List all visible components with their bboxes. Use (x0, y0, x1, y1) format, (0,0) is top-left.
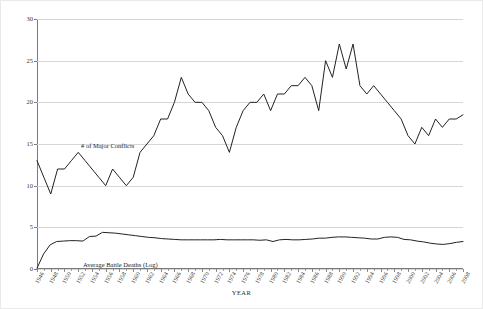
y-tick-label: 30 (27, 16, 34, 23)
x-tick-label: 1978 (254, 271, 265, 284)
x-tick-mark (113, 269, 114, 271)
x-tick-label: 1980 (268, 271, 279, 284)
x-axis-title: YEAR (1, 289, 482, 296)
y-tick-label: 5 (30, 224, 33, 231)
x-tick-mark (188, 269, 189, 272)
x-tick-label: 1990 (336, 271, 347, 284)
x-tick-label: 1976 (240, 271, 251, 284)
x-tick-label: 1994 (364, 271, 375, 284)
x-tick-label: 1960 (130, 271, 141, 284)
x-tick-label: 1964 (158, 271, 169, 284)
x-tick-mark (181, 269, 182, 271)
x-tick-label: 1952 (75, 271, 86, 284)
x-tick-label: 1948 (48, 271, 59, 284)
x-tick-mark (140, 269, 141, 271)
y-tick-label: 25 (27, 57, 34, 64)
x-tick-mark (106, 269, 107, 272)
x-tick-label: 1968 (185, 271, 196, 284)
x-tick-mark (51, 269, 52, 272)
x-tick-mark (78, 269, 79, 272)
x-tick-mark (319, 269, 320, 271)
x-tick-mark (154, 269, 155, 271)
x-tick-mark (381, 269, 382, 272)
x-tick-mark (271, 269, 272, 272)
x-tick-mark (312, 269, 313, 272)
x-tick-mark (37, 269, 38, 272)
x-tick-label: 1972 (213, 271, 224, 284)
x-tick-mark (71, 269, 72, 271)
x-tick-label: 1992 (350, 271, 361, 284)
x-tick-label: 1998 (391, 271, 402, 284)
x-tick-mark (85, 269, 86, 271)
x-tick-mark (408, 269, 409, 272)
x-tick-mark (168, 269, 169, 271)
x-tick-mark (463, 269, 464, 272)
x-tick-mark (367, 269, 368, 272)
x-tick-mark (44, 269, 45, 271)
x-tick-mark (353, 269, 354, 272)
x-tick-mark (449, 269, 450, 272)
x-tick-label: 2004 (433, 271, 444, 284)
x-tick-label: 1962 (144, 271, 155, 284)
series-label-major-conflicts: # of Major Conflicts (81, 143, 134, 150)
x-tick-mark (209, 269, 210, 271)
x-tick-mark (401, 269, 402, 271)
x-tick-mark (223, 269, 224, 271)
x-tick-label: 2002 (419, 271, 430, 284)
x-tick-mark (147, 269, 148, 272)
x-tick-mark (429, 269, 430, 271)
series-label-average-battle-deaths: Average Battle Deaths (Log) (83, 262, 158, 269)
x-tick-mark (442, 269, 443, 271)
x-tick-label: 1974 (226, 271, 237, 284)
x-tick-mark (360, 269, 361, 271)
x-tick-label: 1984 (295, 271, 306, 284)
x-tick-label: 1986 (309, 271, 320, 284)
x-tick-label: 1996 (378, 271, 389, 284)
x-tick-label: 1988 (323, 271, 334, 284)
x-tick-mark (456, 269, 457, 271)
x-tick-mark (374, 269, 375, 271)
chart-page: 051015202530 194619481950195219541956195… (0, 0, 483, 309)
x-tick-label: 1982 (281, 271, 292, 284)
x-tick-mark (387, 269, 388, 271)
x-tick-mark (126, 269, 127, 271)
x-tick-mark (264, 269, 265, 271)
x-tick-label: 2000 (405, 271, 416, 284)
x-tick-label: 1966 (171, 271, 182, 284)
x-tick-label: 2006 (446, 271, 457, 284)
x-tick-mark (58, 269, 59, 271)
x-tick-mark (332, 269, 333, 271)
x-tick-label: 1958 (116, 271, 127, 284)
y-tick-label: 15 (27, 141, 34, 148)
plot-area: 051015202530 194619481950195219541956195… (37, 19, 463, 269)
y-tick-label: 10 (27, 182, 34, 189)
x-tick-mark (436, 269, 437, 272)
x-tick-mark (346, 269, 347, 271)
x-tick-mark (422, 269, 423, 272)
x-tick-mark (195, 269, 196, 271)
x-tick-mark (99, 269, 100, 271)
x-tick-mark (236, 269, 237, 271)
x-tick-mark (415, 269, 416, 271)
x-tick-label: 1954 (89, 271, 100, 284)
x-tick-mark (326, 269, 327, 272)
x-tick-mark (250, 269, 251, 271)
x-tick-label: 1946 (34, 271, 45, 284)
x-tick-mark (202, 269, 203, 272)
x-tick-label: 2008 (460, 271, 471, 284)
line-major-conflicts (37, 44, 463, 194)
x-tick-mark (277, 269, 278, 271)
x-tick-mark (133, 269, 134, 272)
x-tick-mark (243, 269, 244, 272)
x-tick-label: 1950 (61, 271, 72, 284)
x-tick-mark (92, 269, 93, 272)
x-tick-mark (161, 269, 162, 272)
x-tick-mark (291, 269, 292, 271)
x-tick-mark (216, 269, 217, 272)
x-tick-mark (298, 269, 299, 272)
x-tick-label: 1970 (199, 271, 210, 284)
y-tick-label: 0 (30, 266, 33, 273)
x-tick-mark (305, 269, 306, 271)
x-tick-label: 1956 (103, 271, 114, 284)
x-tick-mark (257, 269, 258, 272)
